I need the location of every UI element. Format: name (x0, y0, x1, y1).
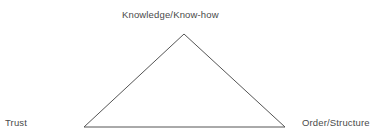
vertex-label-order-structure: Order/Structure (302, 117, 370, 128)
vertex-label-trust: Trust (5, 117, 27, 128)
vertex-label-knowledge: Knowledge/Know-how (122, 9, 219, 20)
triangle-outline (84, 34, 285, 127)
diagram-canvas: Knowledge/Know-how Trust Order/Structure (0, 0, 385, 140)
